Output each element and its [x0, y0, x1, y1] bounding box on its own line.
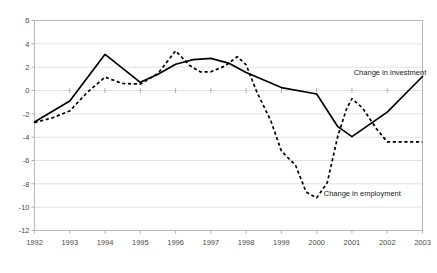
- x-tick-label: 1994: [97, 238, 114, 247]
- x-tick-label: 1997: [203, 238, 220, 247]
- x-tick-label: 1999: [273, 238, 290, 247]
- x-tick-label: 1993: [61, 238, 78, 247]
- y-tick-label: -2: [23, 110, 30, 119]
- series-line-investment: [35, 54, 423, 136]
- y-tick-label: -4: [23, 133, 30, 142]
- x-tick-label: 1996: [167, 238, 184, 247]
- y-axis-labels-group: 6420-2-4-6-8-10-12: [19, 16, 30, 235]
- x-axis-labels-group: 1992199319941995199619971998199920002001…: [26, 238, 431, 247]
- series-label-investment: Change in investment: [354, 68, 427, 77]
- line-chart: 6420-2-4-6-8-10-12 199219931994199519961…: [0, 0, 437, 273]
- y-tick-label: -6: [23, 156, 30, 165]
- x-tick-label: 2002: [379, 238, 396, 247]
- y-tick-label: 2: [25, 63, 29, 72]
- tickmarks-group: [32, 21, 423, 234]
- x-tick-label: 1992: [26, 238, 43, 247]
- chart-container: 6420-2-4-6-8-10-12 199219931994199519961…: [0, 0, 437, 273]
- y-tick-label: 4: [25, 40, 29, 49]
- y-tick-label: 6: [25, 16, 29, 25]
- series-label-employment: Change in employment: [324, 189, 402, 198]
- x-tick-label: 2000: [308, 238, 325, 247]
- y-tick-label: -12: [19, 226, 30, 235]
- y-tick-label: 0: [25, 86, 29, 95]
- y-tick-label: -8: [23, 180, 30, 189]
- x-tick-label: 2003: [414, 238, 431, 247]
- x-tick-label: 1998: [238, 238, 255, 247]
- x-tick-label: 2001: [344, 238, 361, 247]
- x-tick-label: 1995: [132, 238, 149, 247]
- y-tick-label: -10: [19, 203, 30, 212]
- plot-frame: [35, 21, 423, 231]
